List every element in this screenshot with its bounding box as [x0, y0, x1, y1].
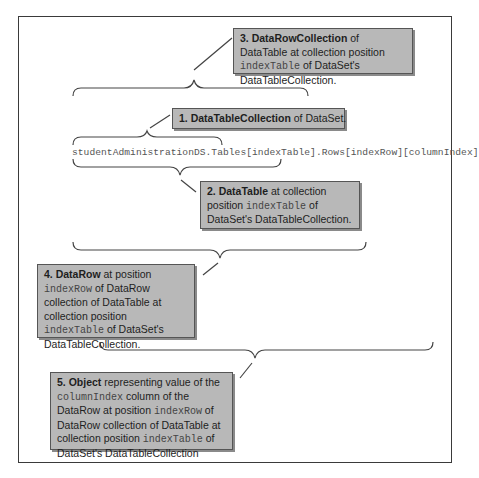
- callout-code: columnIndex: [57, 392, 123, 403]
- callout-code: indexTable: [246, 201, 306, 212]
- callout-code: indexRow: [154, 406, 202, 417]
- callout-code: indexRow: [44, 284, 92, 295]
- callout-1-datatablecollection: 1. DataTableCollection of DataSet.: [172, 108, 345, 129]
- callout-text: of DataSet.: [291, 112, 346, 124]
- callout-term: 4. DataRow: [44, 268, 101, 280]
- callout-code: indexTable: [240, 61, 300, 72]
- callout-term: 5. Object: [57, 376, 101, 388]
- callout-5-object: 5. Object representing value of the colu…: [50, 372, 233, 450]
- callout-text: at position: [101, 268, 152, 280]
- callout-term: 1. DataTableCollection: [179, 112, 291, 124]
- callout-term: 3. DataRowCollection: [240, 32, 347, 44]
- callout-code: indexTable: [143, 434, 203, 445]
- callout-2-datatable: 2. DataTable at collection position inde…: [200, 181, 360, 229]
- callout-4-datarow: 4. DataRow at position indexRow of DataR…: [37, 264, 195, 338]
- callout-term: 2. DataTable: [207, 185, 268, 197]
- callout-code: indexTable: [44, 325, 104, 336]
- code-expression: studentAdministrationDS.Tables[indexTabl…: [72, 147, 479, 158]
- callout-text: representing value of the: [101, 376, 220, 388]
- callout-3-datarowcollection: 3. DataRowCollection of DataTable at col…: [233, 28, 413, 74]
